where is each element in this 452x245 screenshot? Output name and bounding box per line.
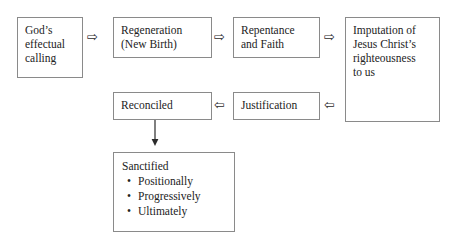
node-line: to us <box>353 65 432 79</box>
node-sanctified: Sanctified Positionally Progressively Ul… <box>113 152 235 232</box>
node-line: calling <box>25 51 75 65</box>
sanctified-bullet-list: Positionally Progressively Ultimately <box>122 174 226 219</box>
node-regeneration: Regeneration (New Birth) <box>113 17 212 58</box>
node-repentance-and-faith: Repentance and Faith <box>233 17 320 58</box>
node-line: effectual <box>25 37 75 51</box>
node-line: Justification <box>241 98 312 112</box>
arrow-right-icon-regeneration-to-repentance: ⇨ <box>214 30 225 43</box>
node-imputation-of-righteousness: Imputation of Jesus Christ’s righteousne… <box>345 17 440 122</box>
node-justification: Justification <box>233 92 320 120</box>
node-gods-effectual-calling: God’s effectual calling <box>17 17 83 78</box>
node-line: Reconciled <box>121 98 204 112</box>
node-line: Regeneration <box>121 23 204 37</box>
node-line: Imputation of <box>353 23 432 37</box>
node-line: (New Birth) <box>121 37 204 51</box>
node-reconciled: Reconciled <box>113 92 212 120</box>
list-item: Positionally <box>122 174 226 189</box>
list-item: Ultimately <box>122 204 226 219</box>
arrow-down-icon-reconciled-to-sanctified <box>148 120 162 150</box>
sanctified-title: Sanctified <box>122 159 226 173</box>
node-line: righteousness <box>353 51 432 65</box>
node-line: and Faith <box>241 37 312 51</box>
node-line: Jesus Christ’s <box>353 37 432 51</box>
arrow-left-icon-imputation-to-justification: ⇦ <box>324 98 335 111</box>
list-item: Progressively <box>122 189 226 204</box>
arrow-left-icon-justification-to-reconciled: ⇦ <box>214 98 225 111</box>
arrow-right-icon-repentance-to-imputation: ⇨ <box>324 30 335 43</box>
diagram-canvas: God’s effectual calling ⇨ Regeneration (… <box>0 0 452 245</box>
node-line: Repentance <box>241 23 312 37</box>
node-line: God’s <box>25 23 75 37</box>
arrow-right-icon-calling-to-regeneration: ⇨ <box>87 30 98 43</box>
